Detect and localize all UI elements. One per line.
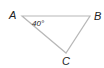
angle-label-a: 40° (32, 19, 45, 28)
triangle-diagram: A B C 40° (0, 0, 104, 68)
vertex-label-b: B (94, 10, 101, 22)
vertex-label-a: A (8, 9, 16, 21)
vertex-label-c: C (62, 55, 70, 67)
